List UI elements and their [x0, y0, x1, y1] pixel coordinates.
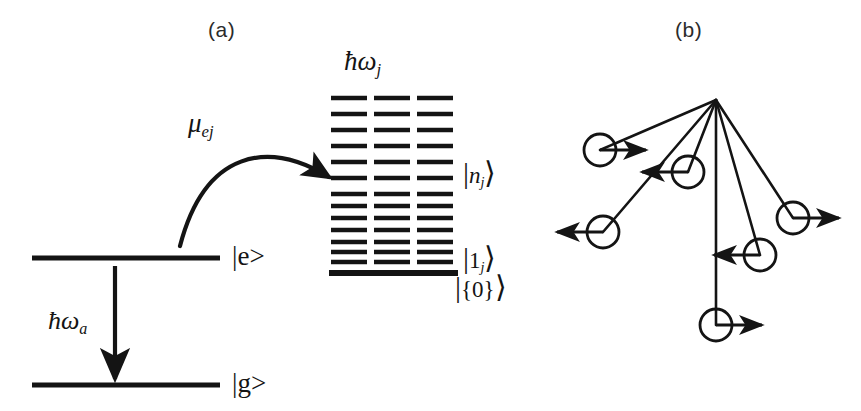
node-inner-right-spoke: [716, 100, 760, 255]
node-right-spoke: [716, 100, 793, 218]
coupling-arrow-path: [180, 157, 329, 246]
mode-energy-label: ħωj: [344, 48, 381, 79]
zero-state-label: |{0}⟩: [455, 272, 507, 302]
ground-state-label: |g>: [232, 370, 266, 397]
emission-energy-symbol: ħω: [48, 306, 79, 335]
ket-angle-right: ⟩: [484, 156, 496, 189]
emission-energy-label: ħωa: [48, 308, 87, 337]
zero-state-symbol: {0}: [461, 277, 495, 302]
emission-energy-subscript: a: [79, 320, 87, 337]
coupling-arrow-group: [180, 157, 329, 246]
mode-energy-symbol: ħω: [344, 46, 377, 76]
mode-energy-subscript: j: [377, 60, 382, 79]
ket-angle-right: ⟩: [495, 270, 507, 303]
one-state-symbol: 1: [469, 248, 481, 273]
figure-vector-layer: [0, 0, 861, 411]
n-state-label: |nj⟩: [463, 158, 496, 190]
physics-figure: (a) (b) |e> |g> ħωa μej ħωj |nj⟩: [0, 0, 861, 411]
excited-state-label: |e>: [232, 243, 265, 270]
coupling-symbol: μ: [188, 108, 202, 138]
one-state-label: |1j⟩: [463, 243, 496, 275]
n-state-symbol: n: [469, 163, 481, 188]
coupling-label: μej: [188, 110, 214, 141]
coupling-subscript: ej: [202, 122, 214, 141]
radiating-group: [557, 100, 839, 341]
ladder-group: [329, 98, 458, 273]
